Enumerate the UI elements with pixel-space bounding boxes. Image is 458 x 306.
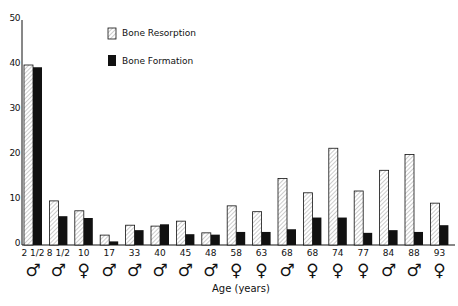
bar-resorption <box>100 235 109 245</box>
x-tick-label: 63 <box>250 248 274 258</box>
male-symbol-icon: ♂ <box>173 262 197 279</box>
bar-resorption <box>227 206 236 245</box>
bar-resorption <box>253 212 262 245</box>
bar-resorption <box>354 191 363 245</box>
male-symbol-icon: ♂ <box>199 262 223 279</box>
female-symbol-icon: ♀ <box>250 262 274 279</box>
x-tick-label: 68 <box>275 248 299 258</box>
x-tick-label: 74 <box>326 248 350 258</box>
x-tick-label: 2 1/2 <box>21 248 45 258</box>
male-symbol-icon: ♂ <box>21 262 45 279</box>
bar-chart: 01020304050 2 1/28 1/2101733404548586368… <box>0 0 458 306</box>
bar-formation <box>338 218 347 245</box>
x-tick-label: 88 <box>402 248 426 258</box>
y-tick-label: 50 <box>0 13 20 23</box>
bar-resorption <box>278 178 287 245</box>
bar-resorption <box>126 225 135 245</box>
y-tick-label: 40 <box>0 58 20 68</box>
bar-formation <box>414 232 423 245</box>
female-symbol-icon: ♀ <box>72 262 96 279</box>
bar-formation <box>389 230 398 245</box>
x-axis-title: Age (years) <box>212 283 270 294</box>
bar-formation <box>287 229 296 245</box>
bar-resorption <box>151 226 160 245</box>
x-tick-label: 84 <box>377 248 401 258</box>
bar-formation <box>236 232 245 245</box>
legend <box>108 28 116 66</box>
male-symbol-icon: ♂ <box>123 262 147 279</box>
bars <box>24 65 448 245</box>
male-symbol-icon: ♂ <box>402 262 426 279</box>
x-tick-label: 93 <box>427 248 451 258</box>
x-tick-label: 8 1/2 <box>46 248 70 258</box>
female-symbol-icon: ♀ <box>300 262 324 279</box>
bar-formation <box>312 218 321 245</box>
bar-formation <box>211 235 220 245</box>
bar-resorption <box>176 221 185 245</box>
bar-formation <box>185 234 194 245</box>
female-symbol-icon: ♀ <box>224 262 248 279</box>
x-tick-label: 68 <box>300 248 324 258</box>
x-tick-label: 10 <box>72 248 96 258</box>
bar-resorption <box>329 148 338 245</box>
male-symbol-icon: ♂ <box>148 262 172 279</box>
y-tick-label: 10 <box>0 193 20 203</box>
bar-formation <box>439 225 448 245</box>
x-tick-label: 33 <box>123 248 147 258</box>
bar-resorption <box>380 170 389 245</box>
male-symbol-icon: ♂ <box>46 262 70 279</box>
x-tick-label: 40 <box>148 248 172 258</box>
bar-resorption <box>430 203 439 245</box>
x-tick-label: 45 <box>173 248 197 258</box>
bar-formation <box>84 218 93 245</box>
male-symbol-icon: ♂ <box>97 262 121 279</box>
bar-resorption <box>405 155 414 245</box>
male-symbol-icon: ♂ <box>377 262 401 279</box>
bar-formation <box>262 232 271 245</box>
bar-formation <box>109 241 118 245</box>
bar-resorption <box>75 211 84 245</box>
female-symbol-icon: ♀ <box>351 262 375 279</box>
bar-formation <box>33 67 42 245</box>
x-tick-label: 58 <box>224 248 248 258</box>
legend-swatch-formation <box>108 55 116 66</box>
x-tick-label: 17 <box>97 248 121 258</box>
bar-formation <box>58 216 67 245</box>
male-symbol-icon: ♂ <box>275 262 299 279</box>
axes <box>22 20 455 245</box>
x-tick-label: 48 <box>199 248 223 258</box>
bar-formation <box>363 233 372 245</box>
female-symbol-icon: ♀ <box>326 262 350 279</box>
bar-resorption <box>49 201 58 245</box>
bar-resorption <box>303 193 312 245</box>
y-tick-label: 30 <box>0 103 20 113</box>
y-tick-label: 20 <box>0 148 20 158</box>
bar-formation <box>135 230 144 245</box>
female-symbol-icon: ♀ <box>427 262 451 279</box>
bar-resorption <box>202 233 211 245</box>
legend-swatch-resorption <box>108 28 116 39</box>
legend-label-formation: Bone Formation <box>122 56 193 66</box>
x-tick-label: 77 <box>351 248 375 258</box>
legend-label-resorption: Bone Resorption <box>122 28 196 38</box>
bar-formation <box>160 224 169 245</box>
y-tick-label: 0 <box>0 238 20 248</box>
bar-resorption <box>24 65 33 245</box>
